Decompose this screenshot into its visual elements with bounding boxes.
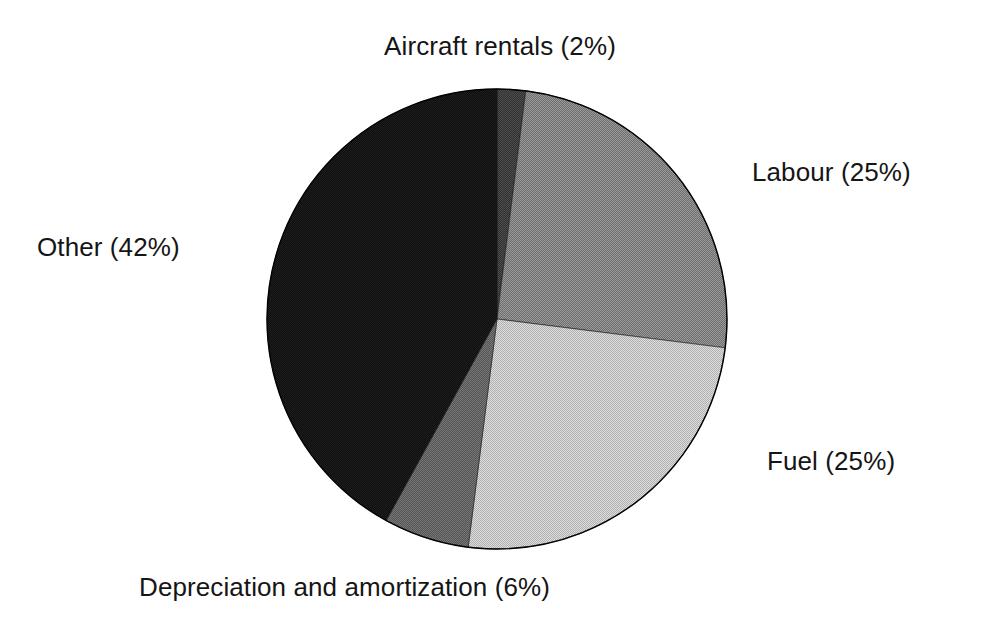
pie-slice-fuel[interactable] [468, 319, 725, 549]
pie-chart-svg [266, 88, 728, 550]
pie-label-fuel: Fuel (25%) [767, 446, 895, 476]
pie-slice-labour[interactable] [497, 91, 727, 348]
pie-label-aircraft-rentals: Aircraft rentals (2%) [0, 31, 1000, 61]
pie-label-depreciation-and-amortization: Depreciation and amortization (6%) [139, 572, 550, 602]
pie-chart-page: Aircraft rentals (2%) Labour (25%) Fuel … [0, 0, 1000, 643]
pie-label-other: Other (42%) [37, 232, 180, 262]
pie-label-labour: Labour (25%) [752, 157, 911, 187]
pie-chart-figure [266, 88, 728, 550]
